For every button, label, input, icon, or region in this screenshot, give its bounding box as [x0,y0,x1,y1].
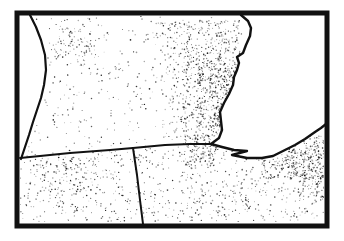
dot-density-map [0,0,344,241]
map-figure [0,0,344,241]
